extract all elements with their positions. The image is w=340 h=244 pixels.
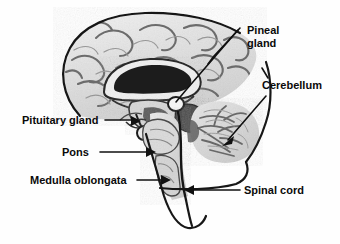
brain-anatomy-figure: Pineal gland Cerebellum Pituitary gland … bbox=[0, 0, 340, 244]
label-medulla-oblongata: Medulla oblongata bbox=[30, 174, 127, 186]
spinal-cord-leader bbox=[184, 185, 240, 195]
label-spinal-cord: Spinal cord bbox=[244, 184, 304, 196]
label-pineal-gland-line1: Pineal bbox=[247, 24, 279, 36]
spinal-cord-outline bbox=[186, 200, 192, 226]
pons-leader bbox=[100, 147, 156, 157]
label-pineal-gland-line2: gland bbox=[247, 37, 276, 49]
label-pons: Pons bbox=[62, 146, 89, 158]
cerebellum-region bbox=[186, 101, 259, 163]
label-cerebellum: Cerebellum bbox=[262, 79, 322, 91]
brain-diagram-svg: Pineal gland Cerebellum Pituitary gland … bbox=[0, 0, 340, 244]
label-pituitary-gland: Pituitary gland bbox=[22, 114, 98, 126]
pineal-gland-structure bbox=[168, 97, 184, 111]
pineal-gland-body bbox=[168, 97, 184, 111]
